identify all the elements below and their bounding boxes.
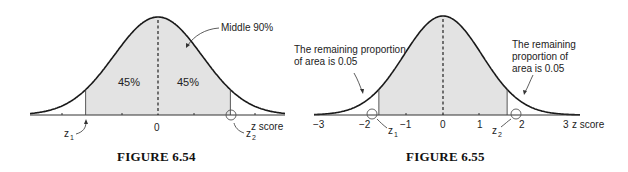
z2-marker-circle (511, 109, 521, 119)
z2-pointer-arrow (501, 119, 511, 127)
right-tail-note: proportion of (512, 51, 568, 62)
tick-label: −2 (359, 119, 371, 130)
tick-label: 3 (563, 119, 569, 130)
left-note-arrow (354, 73, 362, 91)
figure-caption: FIGURE 6.55 (406, 149, 485, 164)
middle-90-annotation: Middle 90% (221, 22, 273, 33)
svg-text:z: z (246, 128, 251, 139)
right-tail-note: area is 0.05 (512, 63, 565, 74)
left-tail-note: of area is 0.05 (294, 56, 358, 67)
figures-canvas: 45% 45% Middle 90% 0 z score z 1 z 2 FIG… (0, 0, 628, 172)
arrowhead-icon (84, 119, 88, 124)
z1-pointer-arrow (377, 119, 387, 128)
svg-text:2: 2 (498, 131, 502, 138)
right-tail-note: The remaining (512, 39, 576, 50)
z1-marker-circle (367, 109, 377, 119)
arrowhead-icon (360, 89, 364, 94)
tick-label: −1 (400, 119, 412, 130)
figure-6-55: −3 −2 −1 0 1 2 3 z score The remaining p… (294, 16, 605, 164)
zero-tick-label: 0 (154, 122, 160, 133)
svg-text:1: 1 (394, 131, 398, 138)
figure-6-54: 45% 45% Middle 90% 0 z score z 1 z 2 FIG… (30, 17, 285, 164)
figure-caption: FIGURE 6.54 (117, 149, 196, 164)
z2-label: z 2 (492, 125, 502, 138)
z2-pointer-arrow (234, 123, 244, 133)
tick-label: 1 (477, 119, 483, 130)
right-note-arrow (525, 75, 533, 92)
svg-text:z: z (64, 128, 69, 139)
arrowhead-icon (523, 90, 527, 95)
axis-label: z score (572, 119, 605, 130)
axis-label: z score (251, 121, 284, 132)
svg-text:z: z (388, 125, 393, 136)
tick-label: 0 (440, 119, 446, 130)
svg-text:z: z (492, 125, 497, 136)
left-percent-label: 45% (118, 76, 140, 88)
svg-text:2: 2 (252, 134, 256, 141)
left-tail-note: The remaining proportion (294, 44, 406, 55)
svg-text:1: 1 (70, 134, 74, 141)
z1-label: z 1 (64, 128, 74, 141)
right-percent-label: 45% (177, 76, 199, 88)
tick-label: −3 (313, 119, 325, 130)
tick-label: 2 (519, 119, 525, 130)
z1-label: z 1 (388, 125, 398, 138)
